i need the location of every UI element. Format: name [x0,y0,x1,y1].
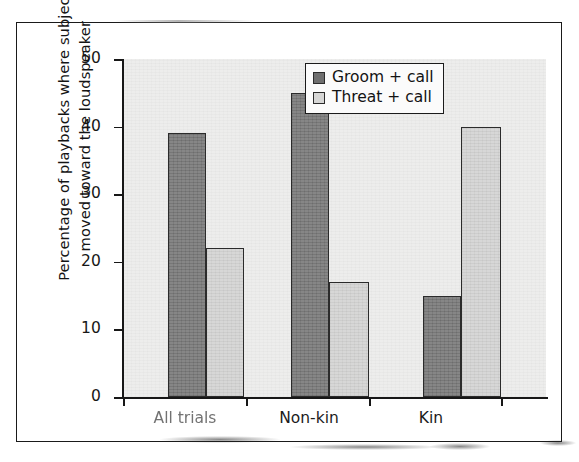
legend-swatch-threat-call [313,92,325,104]
legend-swatch-groom-call [313,72,325,84]
bar-all-trials-threat-call [206,248,244,397]
y-tick-label-20: 20 [55,254,101,270]
legend-entry-groom-call: Groom + call [313,68,434,88]
y-tick-20 [114,262,122,264]
bar-chart: Percentage of playbacks where subject mo… [17,23,563,443]
bar-non-kin-threat-call [329,282,369,397]
x-tick-2 [369,397,371,406]
bar-all-trials-groom-call [168,133,206,397]
bar-non-kin-groom-call [291,93,329,397]
y-tick-10 [114,329,122,331]
scan-artifact-3 [430,443,490,450]
y-tick-label-0: 0 [55,389,101,405]
bar-kin-groom-call [423,296,461,397]
scan-artifact-2 [290,444,440,450]
x-tick-left [123,397,125,406]
y-tick-label-40: 40 [55,119,101,135]
x-category-label-non-kin: Non-kin [279,411,339,427]
y-tick-30 [114,194,122,196]
x-axis-line [116,397,548,399]
x-category-label-all-trials: All trials [154,411,217,427]
y-axis-line [122,59,124,399]
legend-label-groom-call: Groom + call [332,70,434,86]
x-category-label-kin: Kin [419,411,443,427]
legend-label-threat-call: Threat + call [332,90,432,106]
x-tick-1 [246,397,248,406]
legend: Groom + call Threat + call [305,63,444,114]
bar-kin-threat-call [461,127,501,397]
x-tick-right [501,397,503,406]
legend-entry-threat-call: Threat + call [313,88,434,108]
y-tick-40 [114,127,122,129]
figure-frame: Percentage of playbacks where subject mo… [16,22,562,442]
y-tick-label-50: 50 [55,51,101,67]
y-tick-label-30: 30 [55,186,101,202]
y-tick-label-10: 10 [55,321,101,337]
y-tick-50 [114,59,122,61]
